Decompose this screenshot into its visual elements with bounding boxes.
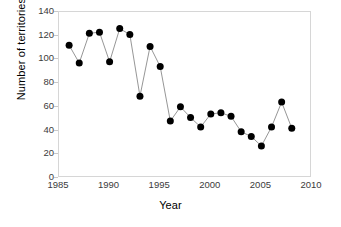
y-tick-mark [54, 82, 58, 83]
y-tick-label: 140 [26, 6, 54, 16]
y-tick-mark [54, 177, 58, 178]
data-point [167, 118, 174, 125]
y-tick-mark [54, 58, 58, 59]
data-point [157, 63, 164, 70]
data-point [217, 109, 224, 116]
y-tick-mark [54, 130, 58, 131]
y-tick-label: 80 [26, 77, 54, 87]
data-point [278, 99, 285, 106]
x-tick-label: 1990 [89, 180, 129, 190]
data-point [187, 114, 194, 121]
y-tick-mark [54, 35, 58, 36]
data-point [86, 30, 93, 37]
y-tick-mark [54, 11, 58, 12]
data-point [268, 124, 275, 131]
y-tick-label: 20 [26, 148, 54, 158]
data-point [106, 58, 113, 65]
series-plot [59, 12, 312, 178]
x-tick-label: 2000 [190, 180, 230, 190]
data-point [126, 31, 133, 38]
data-point [197, 124, 204, 131]
data-point [96, 29, 103, 36]
x-axis-title: Year [0, 199, 341, 211]
y-tick-label: 120 [26, 30, 54, 40]
data-point [248, 133, 255, 140]
data-point [147, 43, 154, 50]
data-point [258, 142, 265, 149]
series-line-territories [69, 29, 292, 146]
series-markers [66, 25, 296, 149]
x-tick-label: 2010 [291, 180, 331, 190]
x-tick-label: 1995 [139, 180, 179, 190]
y-axis-title: Number of territories [15, 0, 27, 109]
x-tick-label: 1985 [38, 180, 78, 190]
x-tick-label: 2005 [240, 180, 280, 190]
data-point [238, 128, 245, 135]
chart-figure: 020406080100120140 Number of territories… [0, 0, 341, 227]
x-axis-ticks: 198519901995200020052010 [0, 180, 341, 194]
y-axis-ticks: 020406080100120140 [24, 11, 54, 177]
y-tick-label: 60 [26, 101, 54, 111]
y-tick-mark [54, 106, 58, 107]
y-tick-label: 100 [26, 53, 54, 63]
data-point [228, 113, 235, 120]
y-tick-label: 40 [26, 125, 54, 135]
data-point [76, 59, 83, 66]
data-point [207, 110, 214, 117]
data-point [66, 42, 73, 49]
data-point [177, 103, 184, 110]
data-point [116, 25, 123, 32]
data-point [288, 125, 295, 132]
plot-area [58, 11, 311, 177]
y-tick-mark [54, 153, 58, 154]
data-point [136, 93, 143, 100]
